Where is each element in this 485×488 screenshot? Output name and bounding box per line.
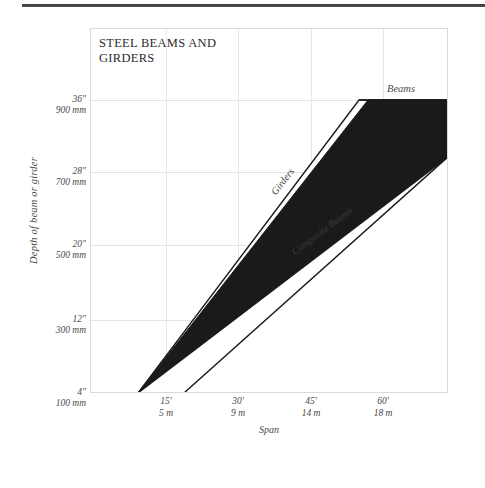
y-tick-20in: 20" 500 mm [12,239,86,261]
x-tick-15ft: 15' 5 m [131,396,201,419]
y-tick-metric: 500 mm [12,250,86,261]
chart-title: STEEL BEAMS AND GIRDERS [99,36,249,66]
x-tick-metric: 5 m [159,408,173,418]
x-tick-imperial: 45' [305,396,317,406]
x-axis-title: Span [90,424,448,435]
y-tick-imperial: 4" [12,387,86,398]
page-root: Depth of beam or girder 36" 900 mm 28" 7… [0,0,485,488]
x-tick-imperial: 60' [377,396,389,406]
x-tick-45ft: 45' 14 m [276,396,346,419]
y-tick-imperial: 28" [12,166,86,177]
y-tick-imperial: 20" [12,239,86,250]
series-label-beams: Beams [387,83,415,94]
y-tick-12in: 12" 300 mm [12,314,86,336]
y-tick-metric: 100 mm [12,398,86,409]
y-tick-metric: 900 mm [12,105,86,116]
x-tick-metric: 18 m [374,408,393,418]
page-margin-clipped-text [469,206,485,456]
x-tick-metric: 9 m [231,408,245,418]
y-tick-4in: 4" 100 mm [12,387,86,409]
y-tick-metric: 700 mm [12,177,86,188]
y-tick-imperial: 12" [12,314,86,325]
y-tick-28in: 28" 700 mm [12,166,86,188]
y-tick-imperial: 36" [12,94,86,105]
x-tick-metric: 14 m [302,408,321,418]
x-tick-60ft: 60' 18 m [348,396,418,419]
chart-plot-inner: STEEL BEAMS AND GIRDERS Girders Composit… [91,29,447,392]
chart-plot-area: STEEL BEAMS AND GIRDERS Girders Composit… [90,28,448,393]
x-tick-imperial: 30' [232,396,244,406]
x-tick-imperial: 15' [160,396,172,406]
x-tick-30ft: 30' 9 m [203,396,273,419]
y-tick-36in: 36" 900 mm [12,94,86,116]
y-axis-tick-group: 36" 900 mm 28" 700 mm 20" 500 mm 12" 300… [10,0,86,488]
top-divider-rule [22,4,485,7]
y-tick-metric: 300 mm [12,325,86,336]
